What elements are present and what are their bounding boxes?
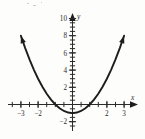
parabola-figure: −3−223−2246810 x y (0, 0, 145, 139)
x-axis-label: x (130, 93, 135, 102)
x-tick-label: 2 (105, 110, 109, 118)
x-tick-label: −2 (34, 110, 42, 118)
y-tick-label: 10 (60, 15, 68, 23)
y-tick-label: 8 (63, 32, 67, 40)
y-tick-label: −2 (59, 118, 67, 126)
x-tick-label: 3 (122, 110, 126, 118)
y-tick-label: 6 (63, 50, 67, 58)
plot-canvas: −3−223−2246810 x y (0, 0, 145, 139)
y-axis-label: y (76, 12, 81, 21)
scan-noise (27, 2, 42, 6)
x-tick-label: −3 (17, 110, 25, 118)
y-tick-label: 4 (63, 67, 67, 75)
y-tick-label: 2 (63, 84, 67, 92)
